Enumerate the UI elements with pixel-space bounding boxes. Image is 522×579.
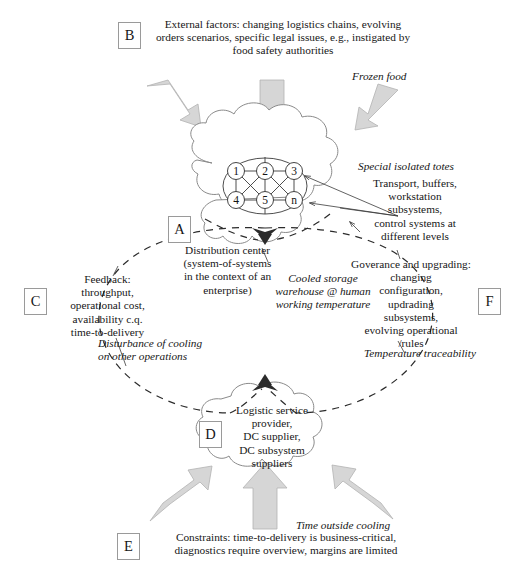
arrow-external-left [147,80,201,127]
diagram-canvas: B External factors: changing logistics c… [0,0,522,579]
network-node-n[interactable]: n [283,191,305,209]
label-feedback: Feedback: throughput, operational cost, … [45,273,170,339]
network-node-3[interactable]: 3 [283,162,305,180]
arrow-external-center [249,80,295,132]
network-node-5[interactable]: 5 [254,191,276,209]
label-governance-upgrading: Goverance and upgrading: changing config… [345,258,477,350]
arrow-frozen-food [355,84,398,130]
arrow-constraints-center [243,463,287,529]
tag-c[interactable]: C [24,288,47,315]
label-disturbance-of-cooling: Disturbance of cooling on other operatio… [98,337,243,363]
label-external-factors: External factors: changing logistics cha… [148,18,418,58]
tag-e[interactable]: E [117,533,140,560]
arrow-time-outside [332,465,393,519]
network-node-2[interactable]: 2 [254,162,276,180]
network-node-1[interactable]: 1 [225,162,247,180]
arrow-constraints-left [150,466,212,521]
label-logistic-service-provider: Logistic service provider, DC supplier, … [212,404,332,470]
network-node-4[interactable]: 4 [225,191,247,209]
label-transport-buffers: Transport, buffers, workstation subsyste… [340,177,490,243]
label-special-isolated-totes: Special isolated totes [358,160,508,173]
label-temperature-traceability: Temperature traceability [350,347,490,360]
label-frozen-food: Frozen food [352,70,462,83]
tag-a[interactable]: A [168,216,191,243]
label-constraints: Constraints: time-to-delivery is busines… [141,531,431,557]
tag-b[interactable]: B [118,22,141,49]
tag-f[interactable]: F [478,288,501,315]
